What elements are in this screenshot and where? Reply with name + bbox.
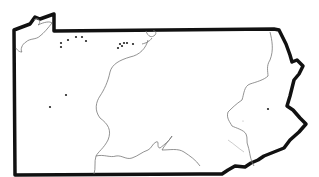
location-dot: [119, 43, 121, 45]
location-dots: [49, 36, 269, 122]
location-dot: [49, 106, 51, 108]
river-east: [227, 32, 272, 166]
location-dot: [132, 43, 134, 45]
location-dot: [81, 36, 83, 38]
pennsylvania-map: [0, 0, 319, 177]
river-south: [96, 136, 200, 166]
map-container: [0, 0, 319, 177]
location-dot: [60, 42, 62, 44]
location-dot: [75, 36, 77, 38]
location-dot: [267, 108, 269, 110]
location-dot: [117, 47, 119, 49]
location-dot: [67, 39, 69, 41]
location-dot: [121, 45, 123, 47]
state-border: [14, 14, 306, 175]
location-dot: [85, 40, 87, 42]
river-loop-north: [142, 31, 156, 44]
location-dot: [65, 94, 67, 96]
boundary-faint: [228, 140, 244, 152]
lake-erie-shore: [16, 19, 52, 52]
location-dot-faint: [242, 120, 243, 121]
location-dot: [123, 42, 125, 44]
location-dot: [60, 46, 62, 48]
location-dot: [126, 42, 128, 44]
